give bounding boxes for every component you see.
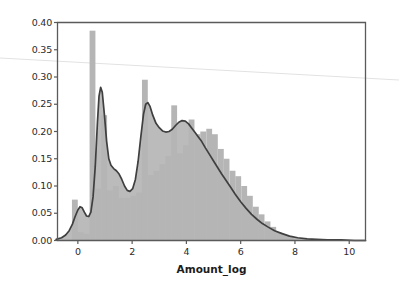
histogram-bar: [84, 234, 90, 241]
histogram-bar: [218, 149, 224, 241]
histogram-bar: [183, 145, 189, 240]
histogram-bar: [259, 214, 265, 240]
y-axis-tick-label: 0.00: [25, 235, 52, 246]
histogram-bar: [230, 171, 236, 241]
x-axis-tick-label: 10: [334, 246, 364, 257]
x-axis-tick-label: 2: [117, 246, 147, 257]
x-axis-label: Amount_log: [0, 263, 399, 275]
histogram-bar: [195, 134, 201, 240]
histogram-bar: [165, 156, 171, 240]
histogram-bar: [253, 207, 259, 241]
histogram-bar: [130, 196, 136, 241]
histogram-bar: [113, 186, 119, 241]
histogram-bar: [265, 221, 271, 240]
x-axis-tick-label: 0: [63, 246, 93, 257]
histogram-bar: [136, 193, 142, 241]
histogram-bar: [154, 171, 160, 241]
histogram-figure: 0.000.050.100.150.200.250.300.350.400246…: [0, 0, 399, 292]
y-axis-tick-label: 0.30: [25, 71, 52, 82]
histogram-bar: [78, 232, 84, 240]
y-axis-tick-label: 0.40: [25, 17, 52, 28]
histogram-bar: [95, 189, 101, 241]
x-axis-tick-label: 8: [280, 246, 310, 257]
y-axis-tick-label: 0.10: [25, 180, 52, 191]
y-axis-tick-label: 0.20: [25, 126, 52, 137]
histogram-bar: [90, 31, 96, 241]
histogram-bar: [212, 134, 218, 240]
histogram-bar: [119, 198, 125, 241]
histogram-bar: [160, 164, 166, 240]
histogram-bar: [125, 198, 131, 241]
y-axis-tick-label: 0.25: [25, 98, 52, 109]
scan-artifact-line: [0, 58, 399, 80]
histogram-bar: [107, 190, 113, 240]
histogram-bar: [235, 176, 241, 240]
histogram-bar: [148, 175, 154, 240]
histogram-bar: [241, 186, 247, 241]
x-axis-tick-label: 4: [171, 246, 201, 257]
y-axis-tick-label: 0.05: [25, 207, 52, 218]
histogram-bar: [72, 200, 78, 241]
histogram-bar: [206, 129, 212, 241]
histogram-bar: [177, 153, 183, 240]
histogram-bar: [189, 120, 195, 241]
histogram-bar: [224, 159, 230, 241]
y-axis-tick-label: 0.15: [25, 153, 52, 164]
histogram-bar: [247, 196, 253, 241]
x-axis-tick-label: 6: [226, 246, 256, 257]
y-axis-tick-label: 0.35: [25, 44, 52, 55]
